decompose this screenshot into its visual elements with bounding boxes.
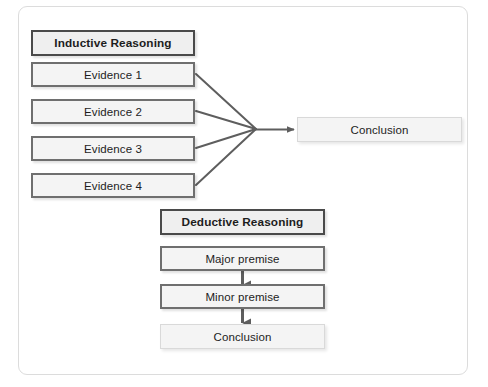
evidence-box-3: Evidence 3 — [31, 136, 195, 161]
evidence-box-1: Evidence 1 — [31, 62, 195, 87]
deductive-conclusion-box: Conclusion — [160, 324, 325, 349]
deductive-reasoning-header: Deductive Reasoning — [160, 209, 325, 235]
evidence-box-2: Evidence 2 — [31, 99, 195, 124]
inductive-conclusion-box: Conclusion — [297, 117, 462, 142]
deductive-minor-premise-box: Minor premise — [160, 284, 325, 309]
deductive-major-premise-box: Major premise — [160, 246, 325, 271]
evidence-box-4: Evidence 4 — [31, 173, 195, 198]
inductive-reasoning-header: Inductive Reasoning — [31, 30, 195, 56]
diagram-canvas: Inductive Reasoning Evidence 1 Evidence … — [0, 0, 488, 387]
